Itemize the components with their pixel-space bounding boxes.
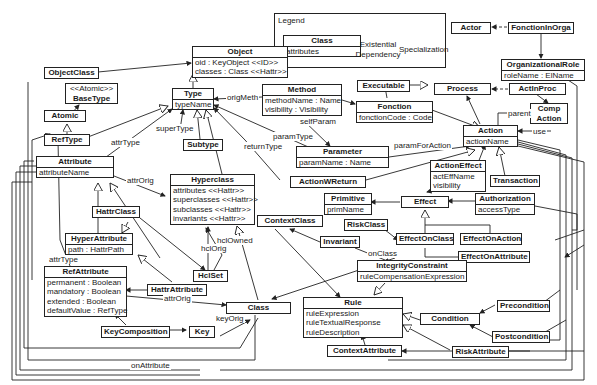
label-attrtype-2: attrType [48, 255, 79, 264]
class-transaction[interactable]: Transaction [490, 175, 540, 187]
class-executable[interactable]: Executable [357, 80, 410, 92]
label-origmeth: origMeth [226, 93, 259, 102]
class-actor[interactable]: Actor [451, 22, 491, 34]
class-effectonattribute[interactable]: EffectOnAttribute [458, 251, 530, 263]
label-returntype: returnType [243, 142, 283, 151]
class-hclset[interactable]: HclSet [193, 270, 228, 282]
class-effectonclass[interactable]: EffectOnClass [396, 233, 454, 245]
class-method[interactable]: Method methodName : Namevisibility : Vis… [262, 84, 342, 116]
class-object[interactable]: Object oid : KeyObject <<ID>>classes : C… [192, 46, 288, 78]
class-organizationalrole[interactable]: OrganizationalRole roleName : ElName [501, 59, 585, 81]
class-hyperclass[interactable]: Hyperclass attributes <<Hattr>> supercla… [170, 174, 255, 225]
label-paramforaction: paramForAction [393, 141, 452, 150]
label-supertype: superType [155, 124, 194, 133]
label-onclass: onClass [367, 249, 398, 258]
class-rule[interactable]: Rule ruleExpression ruleTextualResponse … [303, 297, 403, 338]
class-reftype[interactable]: RefType [44, 134, 90, 146]
class-action[interactable]: Action actionName [463, 125, 518, 147]
class-postcondition[interactable]: Postcondition [492, 331, 550, 343]
label-attrtype-1: attrType [110, 138, 141, 147]
class-hattrclass[interactable]: HattrClass [92, 206, 140, 218]
class-atomic[interactable]: Atomic [44, 110, 86, 122]
class-precondition[interactable]: Precondition [497, 300, 550, 312]
class-actioneffect[interactable]: ActionEffect actEffNamevisibility [430, 160, 486, 192]
class-riskattribute[interactable]: RiskAttribute [452, 346, 509, 358]
class-primitive[interactable]: Primitive primName [324, 193, 372, 215]
label-use: use [532, 127, 547, 136]
label-parent: parent [507, 109, 532, 118]
class-basetype[interactable]: <<Atomic>> BaseType [65, 83, 118, 104]
class-refattribute[interactable]: RefAttribute permanent : Boolean mandato… [44, 266, 127, 317]
label-attrorig-1: attrOrig [126, 176, 155, 185]
class-compaction[interactable]: Comp Action [530, 103, 568, 124]
class-type[interactable]: Type typeName [172, 88, 214, 110]
class-effect[interactable]: Effect [401, 196, 449, 208]
class-process[interactable]: Process [434, 83, 491, 95]
class-actionwreturn[interactable]: ActionWReturn [290, 176, 366, 188]
legend-specialization: Specialization [399, 45, 448, 54]
class-parameter[interactable]: Parameter paramName : Name [296, 146, 389, 168]
class-attribute[interactable]: Attribute attributeName [36, 156, 114, 178]
class-authorization[interactable]: Authorization accessType [475, 193, 535, 215]
class-actinproc[interactable]: ActInProc [509, 83, 566, 95]
class-condition[interactable]: Condition [420, 313, 480, 325]
class-fonctioninorga[interactable]: FonctionInOrga [508, 22, 574, 34]
label-keyorig: keyOrig [215, 314, 245, 323]
legend-existential-dependency: Existential Dependency [355, 40, 401, 60]
class-riskclass[interactable]: RiskClass [344, 219, 388, 231]
class-hyperattribute[interactable]: HyperAttribute path : HattrPath [65, 233, 133, 255]
class-keycomposition[interactable]: KeyComposition [101, 326, 170, 338]
legend-class-box: Class attributes [283, 35, 361, 57]
class-fonction[interactable]: Fonction fonctionCode : Code [356, 101, 433, 123]
class-class[interactable]: Class [226, 302, 291, 314]
legend-title: Legend [278, 16, 305, 25]
class-invariant[interactable]: Invariant [320, 236, 360, 248]
class-contextclass[interactable]: ContextClass [257, 215, 323, 227]
class-key[interactable]: Key [189, 326, 215, 338]
label-onattribute: onAttribute [130, 361, 171, 370]
label-attrorig-2: attrOrig [163, 294, 192, 303]
class-subtype[interactable]: Subtype [183, 139, 223, 151]
label-hclowned: hclOwned [216, 236, 254, 245]
class-integrityconstraint[interactable]: IntegrityConstraint ruleCompensationExpr… [357, 260, 467, 282]
class-contextattribute[interactable]: ContextAttribute [327, 345, 402, 357]
class-objectclass[interactable]: ObjectClass [44, 67, 99, 79]
legend: Legend Class attributes Existential Depe… [274, 13, 446, 68]
label-selfparam: selfParam [299, 117, 337, 126]
class-effectonaction[interactable]: EffectOnAction [460, 233, 522, 245]
label-paramtype: paramType [272, 132, 314, 141]
label-hclorig: hclOrig [200, 244, 227, 253]
